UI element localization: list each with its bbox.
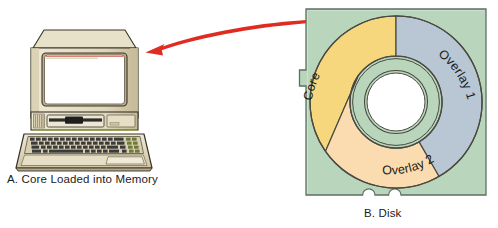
floppy-drive-latch — [65, 116, 83, 123]
monitor-top-bevel — [33, 30, 136, 48]
palm-rest — [21, 155, 147, 166]
screen-recess — [42, 53, 127, 106]
keyboard-front-lip — [16, 168, 152, 171]
monitor-screen — [45, 55, 125, 104]
monitor-body — [31, 48, 138, 118]
key-row-2 — [31, 142, 138, 145]
hub-field — [353, 59, 440, 146]
monitor-right-shade — [130, 48, 138, 118]
system-unit — [31, 112, 138, 130]
vent-grille — [34, 114, 45, 128]
ring-segment-overlay-1 — [396, 16, 482, 177]
drive-bay-right — [107, 115, 135, 127]
disk-sleeve — [300, 9, 487, 195]
panel-core-loaded-into-memory: A. Core Loaded into Memory — [0, 0, 249, 228]
system-unit-body — [31, 112, 138, 130]
panel-disk: Core Overlay 1 Overlay 2 B. Disk — [249, 0, 498, 228]
ring-outer-edge — [310, 16, 482, 188]
keyboard-body — [16, 134, 152, 168]
disk-illustration: Core Overlay 1 Overlay 2 — [249, 0, 498, 228]
caption-panel-b: B. Disk — [364, 207, 401, 219]
disk-ring — [310, 16, 482, 188]
keyboard — [16, 134, 152, 171]
drive-bay-right-detail — [110, 123, 119, 126]
ring-label-overlay-2: Overlay 2 — [382, 152, 437, 178]
sleeve-highlight — [308, 11, 485, 194]
ring-segment-overlay-2 — [326, 76, 440, 188]
monitor-left-shade — [31, 48, 39, 118]
key-field — [25, 137, 144, 154]
computer-illustration — [0, 0, 249, 228]
ring-segment-core — [310, 16, 396, 151]
ring-label-core: Core — [301, 70, 323, 102]
hub-outer-ring — [365, 71, 428, 134]
keyboard-right-plate — [106, 157, 144, 164]
disk-hub — [365, 71, 428, 134]
hub-hole — [367, 73, 425, 131]
figure-root: A. Core Loaded into Memory — [0, 0, 498, 228]
ring-label-overlay-1: Overlay 1 — [436, 47, 478, 102]
key-row-3 — [32, 146, 139, 149]
key-row-4 — [32, 150, 140, 153]
key-rows — [30, 138, 140, 153]
floppy-slot-opening — [49, 118, 102, 121]
monitor — [31, 30, 138, 118]
ring-inner-edge — [350, 56, 442, 148]
caption-panel-a: A. Core Loaded into Memory — [7, 173, 158, 185]
key-row-1 — [30, 138, 137, 141]
floppy-drive-slot — [47, 115, 104, 127]
